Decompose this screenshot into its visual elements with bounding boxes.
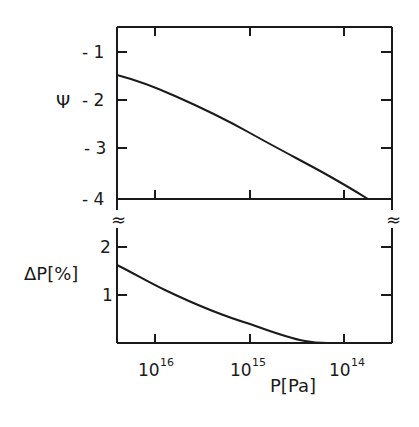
psi-curve (117, 75, 368, 199)
xtick-label-1e16: 10 16 (138, 356, 174, 380)
upper-panel (117, 27, 392, 210)
upper-ytick-label: - 1 (82, 42, 104, 62)
lower-y-axis-label: ΔP[%] (24, 263, 78, 284)
right-axis-break-symbol: ≈ (386, 209, 401, 230)
upper-ytick-label: - 4 (82, 189, 104, 209)
upper-ytick-label: - 2 (82, 90, 104, 110)
left-axis-break-symbol: ≈ (111, 209, 126, 230)
lower-ytick-label: 1 (102, 285, 113, 305)
xtick-label-1e15: 10 15 (230, 356, 266, 380)
svg-text:16: 16 (160, 356, 174, 369)
svg-text:10: 10 (230, 360, 252, 380)
lower-panel (117, 228, 392, 343)
svg-text:10: 10 (138, 360, 160, 380)
svg-text:14: 14 (351, 356, 365, 369)
upper-y-axis-label: Ψ (56, 91, 70, 112)
svg-text:15: 15 (252, 356, 266, 369)
lower-ytick-label: 2 (100, 237, 111, 257)
x-axis-label: P[Pa] (270, 375, 316, 396)
svg-text:10: 10 (329, 360, 351, 380)
delta-p-curve (117, 265, 327, 343)
xtick-label-1e14: 10 14 (329, 356, 365, 380)
chart-figure: ≈ ≈ - 1 - 2 - 3 - 4 Ψ 2 1 ΔP[%] 10 16 10… (0, 0, 419, 427)
upper-ytick-label: - 3 (84, 138, 106, 158)
